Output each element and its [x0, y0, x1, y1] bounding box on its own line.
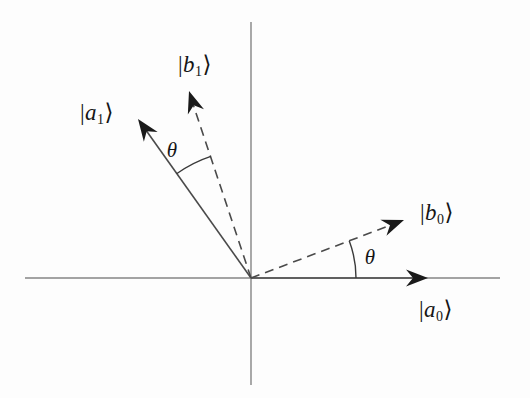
subscript: 0 [436, 309, 444, 324]
label-ket-b0: |b0⟩ [420, 201, 454, 224]
vector-a1 [131, 114, 251, 278]
ket-bracket-glyph: ⟩ [444, 297, 453, 322]
vector-b1-arrowhead [181, 88, 204, 114]
subscript: 0 [437, 212, 445, 227]
letter-glyph: b [183, 52, 195, 77]
label-ket-a1: |a1⟩ [80, 101, 114, 124]
vector-b0 [251, 212, 407, 278]
label-ket-b1: |b1⟩ [178, 53, 212, 76]
label-theta-upper: θ [167, 140, 177, 161]
ket-bracket-glyph: ⟩ [105, 100, 114, 125]
subscript: 1 [97, 112, 105, 127]
vector-b1-shaft [193, 104, 251, 278]
theta-arc-upper [177, 156, 211, 173]
label-theta-lower: θ [365, 247, 375, 268]
vector-diagram: |a1⟩ |b1⟩ |b0⟩ |a0⟩ θ θ [0, 0, 530, 398]
letter-glyph: a [424, 297, 436, 322]
label-ket-a0: |a0⟩ [419, 298, 453, 321]
vector-a0 [251, 270, 428, 287]
vector-a1-shaft [143, 126, 251, 278]
vector-b1 [181, 88, 251, 278]
ket-bracket-glyph: ⟩ [203, 52, 212, 77]
vector-a1-arrowhead [131, 114, 158, 142]
ket-bracket-glyph: ⟩ [445, 200, 454, 225]
theta-arc-lower [349, 241, 356, 278]
letter-glyph: b [425, 200, 437, 225]
letter-glyph: a [85, 100, 97, 125]
subscript: 1 [195, 64, 203, 79]
vector-b0-arrowhead [380, 212, 407, 236]
